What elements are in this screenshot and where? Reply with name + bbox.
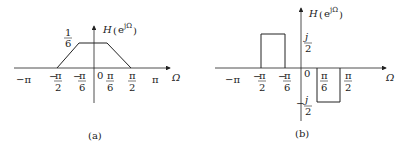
tick-den: 2 xyxy=(259,82,265,93)
tick-num: π xyxy=(107,70,114,81)
tick-den: 6 xyxy=(284,82,290,93)
y-axis-label-sup: jΩ xyxy=(123,22,132,30)
x-axis-label: Ω xyxy=(171,72,180,83)
tick-num: π xyxy=(79,70,86,81)
level-den: 6 xyxy=(65,38,71,49)
tick-den: 6 xyxy=(107,82,113,93)
tick-neg-pi: −π xyxy=(225,74,240,85)
paren-open: ( xyxy=(319,9,323,20)
tick-num: π xyxy=(129,70,136,81)
pos-level-num: j xyxy=(303,31,308,42)
neg-level-sign: − xyxy=(296,98,304,109)
paren-close: ) xyxy=(339,9,343,20)
tick-den: 2 xyxy=(129,82,135,93)
panel-b: H ( e jΩ ) j 2 − j 2 Ω 0 −π − π 2 − π 6 … xyxy=(215,6,394,139)
y-axis-label-sup: jΩ xyxy=(329,6,338,14)
tick-den: 6 xyxy=(79,82,85,93)
y-axis-label-H: H xyxy=(102,24,112,35)
tick-den: 2 xyxy=(55,82,61,93)
tick-num: π xyxy=(284,70,291,81)
tick-num: π xyxy=(345,70,352,81)
tick-num: π xyxy=(55,70,62,81)
caption-b: (b) xyxy=(295,128,309,139)
y-axis-label-H: H xyxy=(308,8,318,19)
level-num: 1 xyxy=(65,27,71,38)
origin-label: 0 xyxy=(97,70,103,81)
caption-a: (a) xyxy=(88,130,102,141)
diagram-canvas: H ( e jΩ ) 1 6 Ω 0 −π − π 2 − π 6 π 6 π … xyxy=(0,0,399,147)
tick-neg-pi: −π xyxy=(16,74,31,85)
tick-num: π xyxy=(259,70,266,81)
tick-pi: π xyxy=(152,74,159,85)
tick-den: 2 xyxy=(345,82,351,93)
tick-den: 6 xyxy=(321,82,327,93)
pos-level-den: 2 xyxy=(305,43,311,54)
neg-level-den: 2 xyxy=(305,106,311,117)
panel-a: H ( e jΩ ) 1 6 Ω 0 −π − π 2 − π 6 π 6 π … xyxy=(14,22,180,141)
paren-close: ) xyxy=(133,25,137,36)
positive-pulse xyxy=(261,34,285,68)
x-axis-label: Ω xyxy=(385,72,394,83)
tick-num: π xyxy=(321,70,328,81)
paren-open: ( xyxy=(113,25,117,36)
origin-label: 0 xyxy=(304,68,310,79)
